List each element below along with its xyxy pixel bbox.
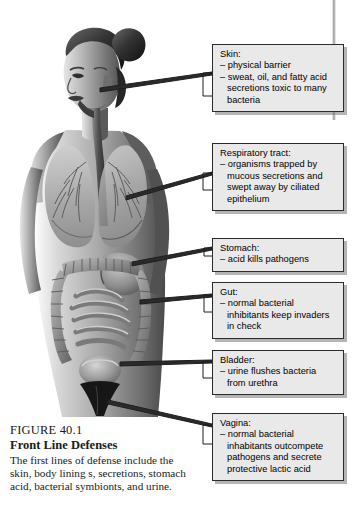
callout-vagina-list: normal bacterial inhabitants outcompete …: [220, 429, 337, 475]
callout-bladder-heading: Bladder:: [220, 355, 337, 366]
callout-bladder-item-0: urine flushes bacteria from urethra: [220, 366, 337, 389]
callout-gut-list: normal bacterial inhibitants keep invade…: [220, 298, 337, 332]
callout-skin-item-0: physical barrier: [220, 60, 337, 71]
callout-skin-list: physical barrier sweat, oil, and fatty a…: [220, 60, 337, 106]
callout-bladder-list: urine flushes bacteria from urethra: [220, 366, 337, 389]
head-and-face: [64, 28, 146, 112]
callout-respiratory-heading: Respiratory tract:: [220, 148, 337, 159]
callout-gut-heading: Gut:: [220, 287, 337, 298]
callout-gut: Gut: normal bacterial inhibitants keep i…: [212, 282, 344, 339]
callout-stomach: Stomach: acid kills pathogens: [212, 238, 344, 272]
callout-stomach-item-0: acid kills pathogens: [220, 254, 337, 265]
callout-vagina-heading: Vagina:: [220, 418, 337, 429]
figure-title: Front Line Defenses: [10, 438, 196, 453]
callout-skin: Skin: physical barrier sweat, oil, and f…: [212, 44, 344, 112]
callout-gut-item-0: normal bacterial inhibitants keep invade…: [220, 298, 337, 332]
callout-vagina: Vagina: normal bacterial inhabitants out…: [212, 413, 344, 481]
callout-respiratory: Respiratory tract: organisms trapped by …: [212, 143, 344, 211]
figure-container: Skin: physical barrier sweat, oil, and f…: [0, 0, 354, 515]
figure-caption: FIGURE 40.1 Front Line Defenses The firs…: [10, 423, 196, 493]
callout-respiratory-item-0: organisms trapped by mucous secretions a…: [220, 159, 337, 205]
callout-skin-item-1: sweat, oil, and fatty acid secretions to…: [220, 72, 337, 106]
callout-skin-heading: Skin:: [220, 49, 337, 60]
callout-stomach-heading: Stomach:: [220, 243, 337, 254]
callout-stomach-list: acid kills pathogens: [220, 254, 337, 265]
figure-number: FIGURE 40.1: [10, 423, 196, 438]
callout-respiratory-list: organisms trapped by mucous secretions a…: [220, 159, 337, 205]
anatomy-illustration: [8, 12, 198, 422]
callout-bladder: Bladder: urine flushes bacteria from ure…: [212, 350, 344, 395]
figure-caption-text: The first lines of defense include the s…: [10, 454, 196, 494]
callout-vagina-item-0: normal bacterial inhabitants outcompete …: [220, 429, 337, 475]
